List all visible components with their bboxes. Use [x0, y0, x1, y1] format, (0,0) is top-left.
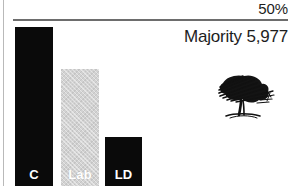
bar-label-liberal-democrat: LD: [105, 167, 142, 182]
bar-conservative: C: [15, 27, 53, 186]
threshold-percent-label: 50%: [258, 0, 288, 18]
oak-tree-logo: [210, 70, 276, 120]
bar-labour: Lab: [61, 69, 99, 186]
bar-label-labour: Lab: [61, 167, 99, 182]
bar-label-conservative: C: [15, 167, 53, 182]
majority-label: Majority 5,977: [184, 26, 288, 47]
fifty-percent-threshold-line: [13, 19, 288, 21]
bar-liberal-democrat: LD: [105, 137, 142, 186]
election-bar-chart: 50% Majority 5,977 C Lab LD: [0, 0, 292, 186]
left-vertical-rule: [3, 0, 4, 186]
